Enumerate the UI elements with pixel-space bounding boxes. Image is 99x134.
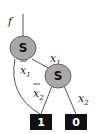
node-s2: S bbox=[45, 64, 71, 88]
root-label: f bbox=[7, 15, 14, 28]
edge-s2-high bbox=[64, 86, 76, 114]
terminal-1: 1 bbox=[30, 114, 52, 130]
terminal-0-label: 0 bbox=[72, 116, 80, 129]
edge-s1-high bbox=[32, 59, 50, 69]
node-s2-label: S bbox=[54, 69, 63, 83]
node-s1: S bbox=[10, 36, 36, 60]
edge-label-not-x1: x1 bbox=[20, 64, 31, 79]
edge-label-x2: x2 bbox=[78, 92, 89, 107]
bdd-diagram: f x1 x1 x2 x2 S S 1 0 bbox=[0, 0, 99, 134]
node-s1-label: S bbox=[19, 41, 28, 55]
terminal-1-label: 1 bbox=[37, 116, 45, 129]
edge-label-not-x2: x2 bbox=[33, 87, 44, 102]
terminal-0: 0 bbox=[65, 114, 87, 130]
